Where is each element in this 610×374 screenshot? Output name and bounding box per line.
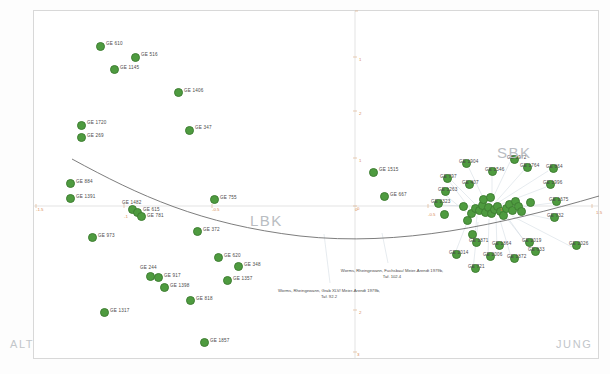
point-label: GE 1871 [469, 239, 489, 244]
point-label: GE 372 [203, 228, 220, 233]
annotation-line: Worms, Rheingewann, Grab XLV/ Meier-Aren… [278, 288, 380, 294]
point-label: GE 1864 [492, 242, 512, 247]
group-label: SBK [497, 144, 532, 161]
point-label: GE 1515 [379, 168, 399, 173]
x-tick-label: 1.5 [596, 210, 602, 215]
scatter-point[interactable] [160, 283, 169, 292]
scatter-point[interactable] [131, 53, 140, 62]
scatter-point[interactable] [66, 179, 75, 188]
corner-label-jung: JUNG [556, 338, 592, 350]
point-label: GE 269 [87, 134, 104, 139]
scatter-point[interactable] [463, 216, 472, 225]
point-label: GE 1857 [210, 339, 230, 344]
point-label: GE 884 [76, 180, 93, 185]
point-label: GE 348 [244, 263, 261, 268]
scatter-point[interactable] [154, 273, 163, 282]
x-tick-label: -1 [124, 214, 128, 219]
point-label: GE 781 [147, 214, 164, 219]
y-tick-label: 1 [359, 57, 361, 62]
point-label: GE 755 [220, 196, 237, 201]
annotation-note: Worms, Rheingewann, Grab XLV/ Meier-Aren… [278, 288, 380, 299]
trend-curve [72, 159, 599, 239]
point-label: GE 633 [528, 248, 545, 253]
scatter-point[interactable] [186, 296, 195, 305]
point-label: GE 818 [196, 297, 213, 302]
scatter-point[interactable] [234, 262, 243, 271]
point-label: GE 1317 [110, 309, 130, 314]
point-label: GE 2006 [483, 253, 503, 258]
scatter-point[interactable] [100, 308, 109, 317]
scatter-point[interactable] [96, 42, 105, 51]
point-label: GE 1391 [76, 195, 96, 200]
annotation-line: Worms, Rheingewann, Fuchsbau/ Meier-Aren… [341, 268, 443, 274]
group-label: LBK [250, 212, 283, 229]
annotation-line: Taf. 102.4 [341, 274, 443, 280]
point-label: GE 1872 [507, 255, 527, 260]
point-label: GE 667 [390, 193, 407, 198]
scatter-point[interactable] [210, 195, 219, 204]
x-tick-label: -0.5 [212, 207, 220, 212]
point-label: GE 2323 [431, 200, 451, 205]
scatter-point[interactable] [88, 233, 97, 242]
point-label: GE 1263 [438, 188, 458, 193]
point-label: GE 1357 [233, 277, 253, 282]
point-label: GE 1406 [184, 89, 204, 94]
point-label: GE 2026 [569, 242, 589, 247]
plot-vector-layer [0, 0, 610, 374]
x-tick-label: 1 [500, 207, 502, 212]
scatter-point[interactable] [517, 207, 526, 216]
point-label: GE 917 [164, 274, 181, 279]
point-label: GE 620 [224, 254, 241, 259]
point-label: GE 1996 [543, 181, 563, 186]
point-label: GE 1398 [170, 284, 190, 289]
x-tick-label: -0.5 [428, 212, 436, 217]
figure-root: GE 610GE 516GE 1145GE 1406GE 1720GE 347G… [0, 0, 610, 374]
tick-marks [36, 11, 592, 352]
point-label: GE 2019 [522, 239, 542, 244]
y-tick-label: 2 [359, 111, 361, 116]
point-label: GE 347 [195, 126, 212, 131]
x-tick-label: -1.5 [36, 207, 44, 212]
point-label: GE 1720 [87, 121, 107, 126]
scatter-point[interactable] [440, 210, 449, 219]
scatter-point[interactable] [77, 133, 86, 142]
point-label: GE 732 [547, 214, 564, 219]
point-label: GE 2014 [449, 251, 469, 256]
scatter-point[interactable] [526, 198, 535, 207]
scatter-point[interactable] [223, 276, 232, 285]
scatter-point[interactable] [77, 121, 86, 130]
point-label: GE 1145 [120, 66, 139, 71]
point-label: GE 1546 [485, 168, 505, 173]
scatter-point[interactable] [193, 227, 202, 236]
scatter-point[interactable] [486, 193, 495, 202]
point-label: GE 864 [546, 165, 563, 170]
annotation-line: Taf. 92.2 [278, 294, 380, 300]
scatter-point[interactable] [66, 194, 75, 203]
scatter-point[interactable] [459, 202, 468, 211]
point-label: GE 1482 [122, 201, 142, 206]
point-label: GE 797 [440, 175, 457, 180]
point-label: GE 973 [98, 234, 115, 239]
scatter-point[interactable] [137, 212, 146, 221]
scatter-point[interactable] [200, 338, 209, 347]
point-label: GE 1675 [549, 198, 569, 203]
y-tick-label: 1 [359, 158, 361, 163]
y-tick-label: 0 [357, 206, 359, 211]
point-label: GE 721 [468, 265, 485, 270]
point-label: GE 1904 [459, 160, 479, 165]
corner-label-alt: ALT [10, 338, 34, 350]
point-label: GE 615 [143, 208, 160, 213]
point-label: GE 516 [141, 53, 158, 58]
point-label: GE 244 [140, 266, 157, 271]
scatter-point[interactable] [110, 65, 119, 74]
point-label: GE 1764 [520, 164, 540, 169]
scatter-point[interactable] [214, 253, 223, 262]
y-tick-label: 2 [359, 310, 361, 315]
scatter-point[interactable] [185, 126, 194, 135]
y-tick-label: 3 [357, 352, 359, 357]
annotation-note: Worms, Rheingewann, Fuchsbau/ Meier-Aren… [341, 268, 443, 279]
scatter-point[interactable] [369, 168, 378, 177]
scatter-point[interactable] [380, 192, 389, 201]
point-label: GE 610 [106, 42, 123, 47]
scatter-point[interactable] [174, 88, 183, 97]
